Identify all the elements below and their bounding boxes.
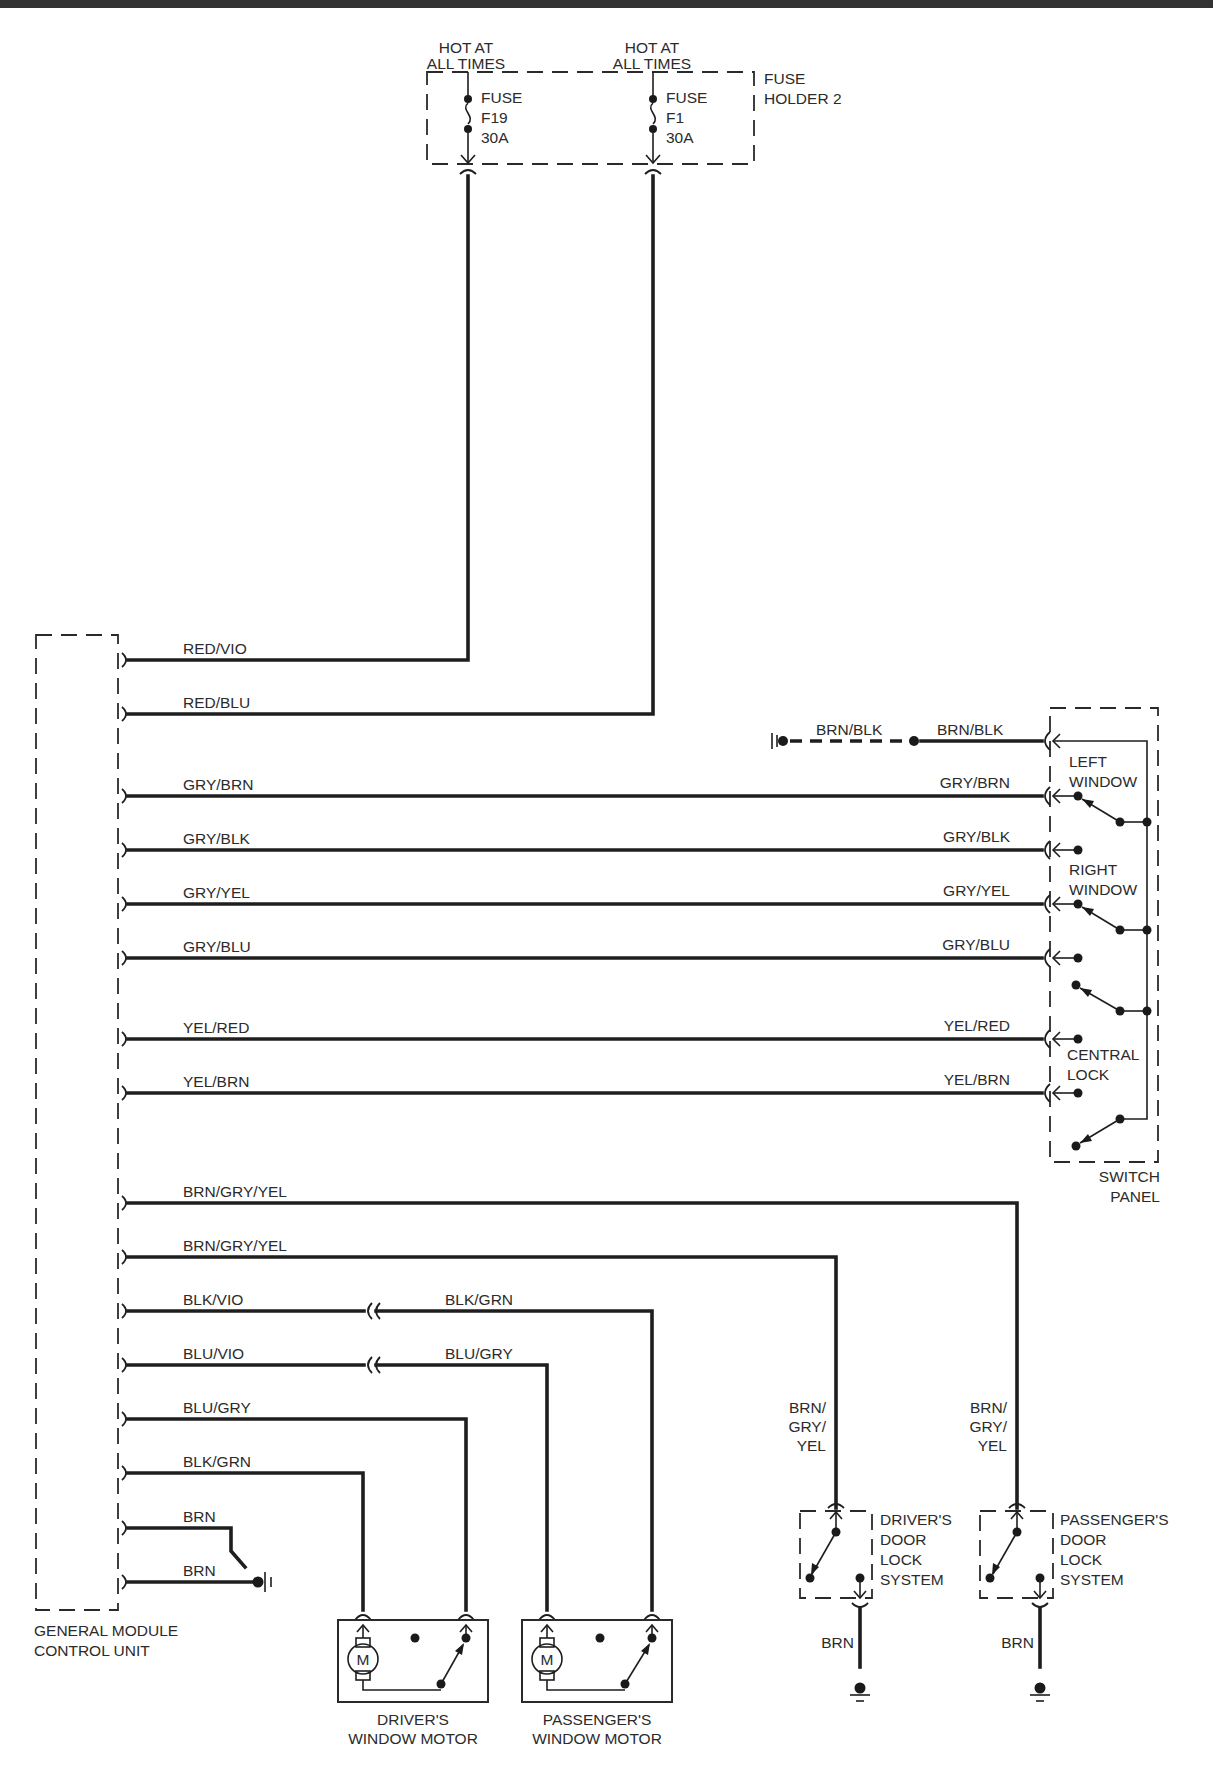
hot-label-right-1: HOT AT xyxy=(625,39,680,56)
wire-label-gry-yel: GRY/YEL xyxy=(183,884,250,901)
passenger-lock-wire-label-1: BRN/ xyxy=(970,1399,1008,1416)
wire-label-red-vio: RED/VIO xyxy=(183,640,247,657)
fuse-f1-label-1: FUSE xyxy=(666,89,707,106)
ground-icon xyxy=(253,1572,272,1592)
wire-label-gry-blu-right: GRY/BLU xyxy=(942,936,1010,953)
fuse-holder: HOT AT ALL TIMES HOT AT ALL TIMES FUSE H… xyxy=(427,39,842,174)
motor-switch-contact xyxy=(648,1634,657,1643)
central-lock-label-2: LOCK xyxy=(1067,1066,1110,1083)
driver-lock-wire-label-2: GRY/ xyxy=(788,1418,826,1435)
driver-motor-label-1: DRIVER'S xyxy=(377,1711,449,1728)
passenger-motor-label-1: PASSENGER'S xyxy=(543,1711,652,1728)
wire-blk-grn xyxy=(128,1473,363,1610)
gmcu-ground: BRN BRN xyxy=(128,1508,271,1592)
wire-label-gry-yel-right: GRY/YEL xyxy=(943,882,1010,899)
left-window-label-2: WINDOW xyxy=(1069,773,1137,790)
right-window-label-2: WINDOW xyxy=(1069,881,1137,898)
driver-door-lock-system: BRN/ GRY/ YEL BRN DRIVER'S DOOR LOCK SYS… xyxy=(788,1399,952,1701)
wiring-diagram: HOT AT ALL TIMES HOT AT ALL TIMES FUSE H… xyxy=(0,0,1213,1768)
wire-label-yel-red-right: YEL/RED xyxy=(944,1017,1010,1034)
wire-blk-grn-passenger xyxy=(376,1311,652,1610)
wire-label-red-blu: RED/BLU xyxy=(183,694,250,711)
gmcu-label-1: GENERAL MODULE xyxy=(34,1622,178,1639)
gmcu-box xyxy=(36,635,118,1610)
fuse-f19-label-3: 30A xyxy=(481,129,509,146)
passenger-lock-label-2: DOOR xyxy=(1060,1531,1107,1548)
switch-panel-wires: GRY/BRN GRY/BRN GRY/BLK GRY/BLK GRY/YEL … xyxy=(128,774,1042,1093)
fuse-f1-label-3: 30A xyxy=(666,129,694,146)
driver-lock-wire-label-3: YEL xyxy=(797,1437,827,1454)
wire-label-blu-vio: BLU/VIO xyxy=(183,1345,244,1362)
driver-window-motor: M DRIVER'S WINDOW MOTOR xyxy=(338,1615,488,1747)
wire-label-brn-1: BRN xyxy=(183,1508,216,1525)
fuse-f19-label-2: F19 xyxy=(481,109,508,126)
wire-label-brn-blk-right: BRN/BLK xyxy=(937,721,1004,738)
passenger-door-lock-system: BRN/ GRY/ YEL BRN PASSENGER'S DOOR LOCK … xyxy=(969,1399,1168,1701)
ground-icon xyxy=(1030,1683,1050,1702)
driver-lock-label-3: LOCK xyxy=(880,1551,923,1568)
driver-lock-ground-label: BRN xyxy=(821,1634,854,1651)
right-window-label-1: RIGHT xyxy=(1069,861,1118,878)
passenger-lock-label-1: PASSENGER'S xyxy=(1060,1511,1169,1528)
wire-label-blk-grn: BLK/GRN xyxy=(183,1453,251,1470)
driver-lock-label-4: SYSTEM xyxy=(880,1571,944,1588)
wire-red-blu xyxy=(128,176,653,714)
motor-symbol: M xyxy=(357,1651,370,1668)
wire-label-brn-blk-left: BRN/BLK xyxy=(816,721,883,738)
connector-icon xyxy=(460,170,476,174)
inline-connector-icon xyxy=(368,1357,372,1373)
switch-panel-connectors xyxy=(1045,732,1060,1102)
hot-label-left-1: HOT AT xyxy=(439,39,494,56)
gmcu-label-2: CONTROL UNIT xyxy=(34,1642,150,1659)
switch-panel-label-1: SWITCH xyxy=(1099,1168,1160,1185)
wire-label-brn-gry-yel-2: BRN/GRY/YEL xyxy=(183,1237,287,1254)
wire-label-gry-brn: GRY/BRN xyxy=(183,776,253,793)
wire-label-yel-brn-right: YEL/BRN xyxy=(944,1071,1010,1088)
wire-label-gry-brn-right: GRY/BRN xyxy=(940,774,1010,791)
driver-lock-label-2: DOOR xyxy=(880,1531,927,1548)
top-border xyxy=(0,0,1213,8)
passenger-lock-wire-label-2: GRY/ xyxy=(969,1418,1007,1435)
fuse-f19-icon xyxy=(461,72,475,163)
gmcu-pins xyxy=(122,653,126,1589)
ground-icon xyxy=(772,733,788,749)
fuse-f1-icon xyxy=(646,72,660,163)
wire-label-gry-blk: GRY/BLK xyxy=(183,830,251,847)
switch-panel: SWITCH PANEL LEFT WINDOW xyxy=(1045,708,1160,1205)
driver-lock-wire-label-1: BRN/ xyxy=(789,1399,827,1416)
wire-label-gry-blu: GRY/BLU xyxy=(183,938,251,955)
wire-label-yel-red: YEL/RED xyxy=(183,1019,249,1036)
passenger-window-motor: M PASSENGER'S WINDOW MOTOR xyxy=(522,1615,672,1747)
passenger-motor-label-2: WINDOW MOTOR xyxy=(532,1730,662,1747)
wire-label-blu-gry-inline: BLU/GRY xyxy=(445,1345,513,1362)
motor-symbol: M xyxy=(541,1651,554,1668)
fuse-f1-label-2: F1 xyxy=(666,109,684,126)
passenger-lock-label-4: SYSTEM xyxy=(1060,1571,1124,1588)
switch-panel-label-2: PANEL xyxy=(1110,1188,1160,1205)
left-window-label-1: LEFT xyxy=(1069,753,1107,770)
driver-motor-label-2: WINDOW MOTOR xyxy=(348,1730,478,1747)
wire-label-yel-brn: YEL/BRN xyxy=(183,1073,249,1090)
wire-blu-gry-passenger xyxy=(376,1365,547,1610)
central-lock-label-1: CENTRAL xyxy=(1067,1046,1140,1063)
hot-label-left-2: ALL TIMES xyxy=(427,55,505,72)
passenger-lock-label-3: LOCK xyxy=(1060,1551,1103,1568)
switch-panel-ground: BRN/BLK BRN/BLK xyxy=(772,721,1042,749)
fuse-holder-label-1: FUSE xyxy=(764,70,805,87)
wire-label-blu-gry: BLU/GRY xyxy=(183,1399,251,1416)
splice-dot-icon xyxy=(909,736,919,746)
hot-label-right-2: ALL TIMES xyxy=(613,55,691,72)
fuse-f19-label-1: FUSE xyxy=(481,89,522,106)
fuse-holder-box xyxy=(427,72,754,164)
wire-red-vio xyxy=(128,176,468,660)
motor-switch-contact xyxy=(462,1634,471,1643)
fuse-holder-label-2: HOLDER 2 xyxy=(764,90,842,107)
wire-label-gry-blk-right: GRY/BLK xyxy=(943,828,1011,845)
ground-icon xyxy=(850,1683,870,1702)
driver-lock-label-1: DRIVER'S xyxy=(880,1511,952,1528)
general-module-control-unit: GENERAL MODULE CONTROL UNIT xyxy=(34,635,178,1659)
wire-label-brn-2: BRN xyxy=(183,1562,216,1579)
right-window-switch-icon xyxy=(1053,900,1152,1016)
wire-label-blk-grn-inline: BLK/GRN xyxy=(445,1291,513,1308)
motor-icon: M xyxy=(532,1625,625,1690)
